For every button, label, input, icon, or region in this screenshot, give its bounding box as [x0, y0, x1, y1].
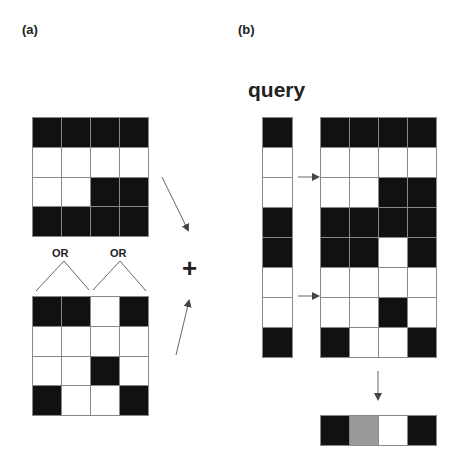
arrow-bottom-to-plus	[176, 301, 189, 355]
arrow-top-to-plus	[162, 177, 188, 230]
connectors	[0, 0, 459, 466]
or-bracket-left	[36, 261, 89, 291]
or-bracket-right	[93, 261, 146, 291]
